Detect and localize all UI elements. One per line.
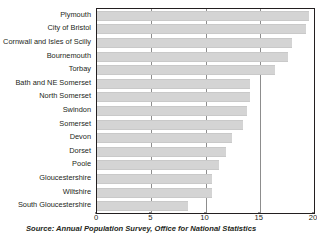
bar-row [97,159,314,173]
category-label: Dorset [69,147,91,155]
plot-area [96,8,315,214]
category-label: Plymouth [60,11,91,19]
category-label: North Somerset [39,92,91,100]
bar-row [97,77,314,91]
category-label-row: Somerset [0,117,94,131]
bar-row [97,23,314,37]
bar [97,160,219,170]
tick-label: 10 [200,213,208,223]
bar [97,65,275,75]
category-label-row: Torbay [0,62,94,76]
category-label: City of Bristol [47,24,91,32]
source-note: Source: Annual Population Survey, Office… [26,224,256,233]
bar [97,52,288,62]
category-label: Swindon [63,106,91,114]
bar-row [97,199,314,213]
bar-row [97,145,314,159]
category-label-row: North Somerset [0,90,94,104]
bar [97,201,188,211]
category-label-row: Bournemouth [0,49,94,63]
category-label: Torbay [69,65,91,73]
bar-row [97,91,314,105]
bar [97,38,292,48]
category-axis-labels: PlymouthCity of BristolCornwall and Isle… [0,8,94,212]
bar-series [97,9,314,213]
category-label-row: City of Bristol [0,22,94,36]
category-label-row: Dorset [0,144,94,158]
bar [97,174,212,184]
bar-row [97,36,314,50]
bar [97,24,306,34]
bar-row [97,63,314,77]
bar-row [97,186,314,200]
bar [97,106,247,116]
category-label: Bournemouth [47,52,91,60]
category-label: Wiltshire [63,188,91,196]
category-label: South Gloucestershire [18,201,91,209]
category-label-row: Plymouth [0,8,94,22]
category-label-row: Bath and NE Somerset [0,76,94,90]
chart-plot-wrapper: PlymouthCity of BristolCornwall and Isle… [0,0,317,233]
category-label: Cornwall and Isles of Scilly [3,38,91,46]
category-label: Bath and NE Somerset [15,79,91,87]
category-label-row: South Gloucestershire [0,198,94,212]
bar-row [97,131,314,145]
bar-row [97,9,314,23]
bar-row [97,50,314,64]
bar [97,188,212,198]
category-label-row: Wiltshire [0,185,94,199]
bar-row [97,172,314,186]
category-label-row: Swindon [0,103,94,117]
category-label-row: Gloucestershire [0,171,94,185]
bar [97,147,226,157]
category-label: Gloucestershire [39,174,91,182]
bar [97,79,250,89]
category-label: Devon [70,133,91,141]
bar-row [97,118,314,132]
tick-label: 5 [148,213,152,223]
bar-chart: PlymouthCity of BristolCornwall and Isle… [0,0,317,233]
bar [97,11,309,21]
tick-label: 15 [255,213,263,223]
category-label: Somerset [59,120,91,128]
bar [97,92,250,102]
category-label-row: Devon [0,130,94,144]
tick-label: 0 [94,213,98,223]
tick-label: 20 [309,213,317,223]
category-label-row: Cornwall and Isles of Scilly [0,35,94,49]
bar [97,133,232,143]
bar [97,120,243,130]
category-label: Poole [72,160,91,168]
bar-row [97,104,314,118]
category-label-row: Poole [0,158,94,172]
